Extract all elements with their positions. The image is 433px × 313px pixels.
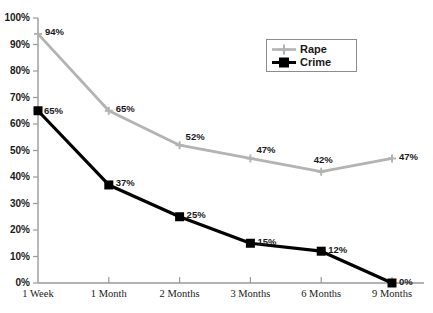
y-tick-label: 90% <box>10 39 30 50</box>
data-point-label: 47% <box>256 144 276 155</box>
data-point-label: 65% <box>44 105 64 116</box>
legend-label-crime: Crime <box>300 56 331 68</box>
data-point-marker <box>246 239 255 248</box>
y-tick-label: 10% <box>10 251 30 262</box>
axes <box>38 18 424 283</box>
x-axis-label: 6 Months <box>301 288 341 299</box>
data-point-label: 47% <box>399 151 419 162</box>
data-point-label: 15% <box>257 236 277 247</box>
y-axis-ticks: 0%10%20%30%40%50%60%70%80%90%100% <box>4 12 38 288</box>
series-line-crime <box>38 111 392 283</box>
y-tick-label: 60% <box>10 118 30 129</box>
data-point-marker <box>246 154 254 162</box>
point-label-layer: 94%65%52%47%42%47%65%37%25%15%12%0% <box>44 26 419 286</box>
data-point-label: 25% <box>187 209 207 220</box>
y-tick-label: 30% <box>10 198 30 209</box>
data-point-marker <box>104 180 113 189</box>
x-axis-label: 3 Months <box>230 288 270 299</box>
legend[interactable]: Rape Crime <box>267 40 357 72</box>
legend-label-rape: Rape <box>300 43 327 55</box>
y-tick-label: 0% <box>16 277 31 288</box>
data-point-marker <box>388 279 397 288</box>
y-tick-label: 50% <box>10 145 30 156</box>
y-tick-label: 20% <box>10 224 30 235</box>
data-point-marker <box>388 154 396 162</box>
line-chart: 0%10%20%30%40%50%60%70%80%90%100% 94%65%… <box>0 0 433 313</box>
data-point-marker <box>317 168 325 176</box>
data-point-label: 65% <box>116 103 136 114</box>
chart-container: 0%10%20%30%40%50%60%70%80%90%100% 94%65%… <box>0 0 433 313</box>
y-tick-label: 40% <box>10 171 30 182</box>
data-point-label: 52% <box>186 131 206 142</box>
y-tick-label: 70% <box>10 92 30 103</box>
data-point-marker <box>317 247 326 256</box>
legend-marker-crime <box>279 58 289 68</box>
data-point-label: 42% <box>314 154 334 165</box>
y-tick-label: 100% <box>4 12 30 23</box>
data-point-marker <box>175 212 184 221</box>
data-point-label: 94% <box>45 26 65 37</box>
data-point-label: 37% <box>116 177 136 188</box>
data-point-label: 0% <box>399 276 413 287</box>
x-axis-label: 1 Month <box>91 288 128 299</box>
x-axis-label: 2 Months <box>160 288 200 299</box>
x-axis-label: 1 Week <box>22 288 54 299</box>
legend-item-crime[interactable]: Crime <box>272 56 331 68</box>
x-axis-ticks <box>109 277 392 283</box>
data-point-label: 12% <box>328 244 348 255</box>
data-point-marker <box>34 106 43 115</box>
x-axis-labels: 1 Week1 Month2 Months3 Months6 Months9 M… <box>22 288 412 299</box>
y-tick-label: 80% <box>10 65 30 76</box>
x-axis-label: 9 Months <box>372 288 412 299</box>
